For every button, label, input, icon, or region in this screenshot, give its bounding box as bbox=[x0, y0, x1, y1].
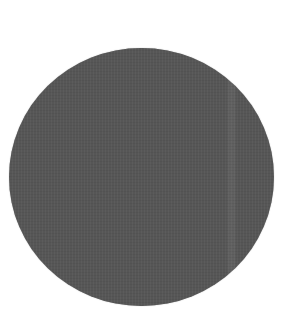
dark-gray-circle bbox=[9, 48, 274, 306]
